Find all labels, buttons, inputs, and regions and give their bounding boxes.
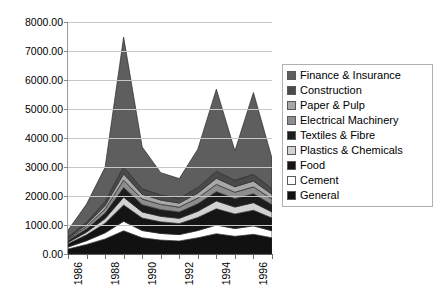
y-axis-tick-label: 0.00 <box>43 249 63 260</box>
y-axis-tick <box>64 138 68 139</box>
y-axis-tick-label: 4000.00 <box>25 133 63 144</box>
legend-item-label: Construction <box>300 85 362 96</box>
x-axis-tick <box>235 255 236 259</box>
gridline <box>68 196 272 197</box>
y-axis-tick <box>64 80 68 81</box>
legend-item: Paper & Pulp <box>287 98 429 113</box>
x-axis-line <box>67 254 273 255</box>
legend-item-label: Paper & Pulp <box>300 100 365 111</box>
x-axis-tick-label: 1992 <box>184 262 195 285</box>
legend-item-label: Textiles & Fibre <box>300 130 375 141</box>
legend-item: Plastics & Chemicals <box>287 143 429 158</box>
legend-swatch-icon <box>287 191 296 200</box>
legend-item: Food <box>287 158 429 173</box>
x-axis-tick <box>198 255 199 259</box>
y-axis-tick-label: 6000.00 <box>25 75 63 86</box>
chart-screenshot: 0.001000.002000.003000.004000.005000.006… <box>0 0 448 305</box>
legend-item: Textiles & Fibre <box>287 128 429 143</box>
y-axis-tick <box>64 196 68 197</box>
x-axis-tick <box>179 255 180 259</box>
x-axis-tick <box>124 255 125 259</box>
legend-item-label: Finance & Insurance <box>300 70 401 81</box>
x-axis-tick <box>105 255 106 259</box>
legend-swatch-icon <box>287 161 296 170</box>
x-axis-tick <box>216 255 217 259</box>
y-axis-tick-label: 2000.00 <box>25 191 63 202</box>
x-axis-tick-label: 1990 <box>147 262 158 285</box>
y-axis-tick <box>64 109 68 110</box>
x-axis-tick-label: 1988 <box>110 262 121 285</box>
x-axis-tick <box>142 255 143 259</box>
legend-item-label: Plastics & Chemicals <box>300 145 403 156</box>
legend-item: Electrical Machinery <box>287 113 429 128</box>
legend-item-label: General <box>300 190 339 201</box>
x-axis-tick-label: 1996 <box>258 262 269 285</box>
y-axis-tick-label: 1000.00 <box>25 220 63 231</box>
gridline <box>68 138 272 139</box>
legend-item: Construction <box>287 83 429 98</box>
y-axis-tick-label: 3000.00 <box>25 162 63 173</box>
legend-swatch-icon <box>287 116 296 125</box>
y-axis-tick <box>64 167 68 168</box>
x-axis-tick <box>68 255 69 259</box>
legend-item-label: Electrical Machinery <box>300 115 398 126</box>
y-axis-tick <box>64 225 68 226</box>
plot-area <box>68 22 272 254</box>
legend-swatch-icon <box>287 131 296 140</box>
gridline <box>68 22 272 23</box>
x-axis-tick-label: 1994 <box>221 262 232 285</box>
chart-legend: Finance & InsuranceConstructionPaper & P… <box>282 64 433 207</box>
y-axis-tick-label: 8000.00 <box>25 17 63 28</box>
gridline <box>68 51 272 52</box>
gridline <box>68 109 272 110</box>
x-axis-tick <box>253 255 254 259</box>
y-axis-tick-label: 7000.00 <box>25 46 63 57</box>
legend-item-label: Food <box>300 160 325 171</box>
gridline <box>68 225 272 226</box>
x-axis-tick <box>161 255 162 259</box>
legend-swatch-icon <box>287 101 296 110</box>
legend-swatch-icon <box>287 146 296 155</box>
x-axis-tick-label: 1986 <box>73 262 84 285</box>
legend-item-label: Cement <box>300 175 339 186</box>
x-axis-tick <box>272 255 273 259</box>
gridline <box>68 167 272 168</box>
legend-swatch-icon <box>287 86 296 95</box>
legend-swatch-icon <box>287 71 296 80</box>
y-axis-tick <box>64 51 68 52</box>
legend-item: General <box>287 188 429 203</box>
y-axis-tick-label: 5000.00 <box>25 104 63 115</box>
legend-item: Finance & Insurance <box>287 68 429 83</box>
gridline <box>68 80 272 81</box>
x-axis-tick <box>87 255 88 259</box>
legend-swatch-icon <box>287 176 296 185</box>
legend-item: Cement <box>287 173 429 188</box>
y-axis-tick <box>64 22 68 23</box>
y-axis-labels: 0.001000.002000.003000.004000.005000.006… <box>0 0 63 305</box>
